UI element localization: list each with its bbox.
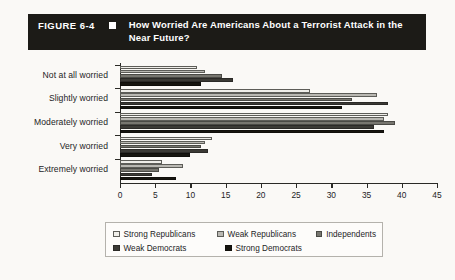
x-axis-tick-label: 25 — [291, 190, 300, 200]
black-square-bullet-icon — [109, 22, 116, 29]
legend-label: Weak Republicans — [228, 230, 296, 239]
legend-swatch-icon — [113, 245, 120, 252]
x-axis-tick-label: 20 — [256, 190, 265, 200]
bar — [120, 130, 384, 134]
x-axis-tick — [190, 184, 191, 188]
figure-title: How Worried Are Americans About a Terror… — [129, 19, 426, 44]
x-axis-tick — [402, 184, 403, 188]
bar — [120, 173, 152, 177]
legend-item-weak-democrats: Weak Democrats — [113, 244, 225, 253]
figure-page: FIGURE 6-4 How Worried Are Americans Abo… — [0, 0, 455, 280]
x-axis-tick-label: 40 — [397, 190, 406, 200]
legend-label: Strong Republicans — [124, 230, 196, 239]
legend-label: Strong Democrats — [236, 244, 302, 253]
legend-item-strong-republicans: Strong Republicans — [113, 230, 217, 239]
x-axis-tick-label: 15 — [221, 190, 230, 200]
y-axis-tick — [115, 135, 120, 136]
legend-label: Weak Democrats — [124, 244, 187, 253]
bar — [120, 102, 388, 106]
x-axis-tick-label: 45 — [432, 190, 441, 200]
x-axis-tick — [367, 184, 368, 188]
bar — [120, 160, 162, 164]
bar — [120, 89, 310, 93]
bar — [120, 98, 352, 102]
bar — [120, 149, 208, 153]
bar — [120, 106, 342, 110]
legend-swatch-icon — [113, 231, 120, 238]
y-axis-category-label: Extremely worried — [0, 164, 108, 174]
x-axis-tick-label: 30 — [327, 190, 336, 200]
x-axis-tick-label: 5 — [153, 190, 158, 200]
figure-banner: FIGURE 6-4 How Worried Are Americans Abo… — [28, 14, 426, 50]
bar — [120, 153, 190, 157]
x-axis-tick — [155, 184, 156, 188]
bar — [120, 78, 233, 82]
plot-area — [120, 64, 437, 182]
y-axis-tick — [115, 112, 120, 113]
legend-row-2: Weak Democrats Strong Democrats — [113, 241, 376, 255]
legend-item-strong-democrats: Strong Democrats — [225, 244, 331, 253]
y-axis-category-label: Moderately worried — [0, 117, 108, 127]
bar — [120, 82, 201, 86]
legend-label: Independents — [326, 230, 376, 239]
bar — [120, 117, 384, 121]
bar — [120, 74, 222, 78]
bar — [120, 141, 205, 145]
x-axis-tick — [261, 184, 262, 188]
bar — [120, 70, 205, 74]
x-axis-tick — [120, 184, 121, 188]
y-axis-category-label: Slightly worried — [0, 93, 108, 103]
x-axis-tick-label: 35 — [362, 190, 371, 200]
y-axis-category-label: Not at all worried — [0, 70, 108, 80]
chart-legend: Strong Republicans Weak Republicans Inde… — [105, 222, 383, 257]
bar — [120, 125, 374, 129]
x-axis-tick — [437, 184, 438, 188]
legend-item-weak-republicans: Weak Republicans — [217, 230, 316, 239]
bar — [120, 177, 176, 181]
legend-item-independents: Independents — [316, 230, 376, 239]
bar — [120, 121, 395, 125]
bar — [120, 113, 388, 117]
x-axis-tick-label: 10 — [186, 190, 195, 200]
bar — [120, 93, 377, 97]
legend-swatch-icon — [225, 245, 232, 252]
legend-swatch-icon — [217, 231, 224, 238]
y-axis-tick — [115, 65, 120, 66]
y-axis-tick — [115, 159, 120, 160]
x-axis-tick — [226, 184, 227, 188]
bar — [120, 164, 183, 168]
y-axis-tick — [115, 88, 120, 89]
x-axis-line — [120, 183, 438, 184]
x-axis-tick — [296, 184, 297, 188]
y-axis-category-label: Very worried — [0, 141, 108, 151]
legend-row-1: Strong Republicans Weak Republicans Inde… — [113, 227, 376, 241]
y-axis-category-labels: Not at all worriedSlightly worriedModera… — [0, 58, 114, 182]
legend-swatch-icon — [316, 231, 323, 238]
bar-chart: Not at all worriedSlightly worriedModera… — [0, 58, 455, 208]
bar — [120, 137, 212, 141]
bar — [120, 145, 201, 149]
bar — [120, 168, 159, 172]
x-axis-tick — [331, 184, 332, 188]
x-axis-tick-label: 0 — [118, 190, 123, 200]
figure-number-label: FIGURE 6-4 — [28, 19, 95, 31]
bar — [120, 66, 197, 70]
